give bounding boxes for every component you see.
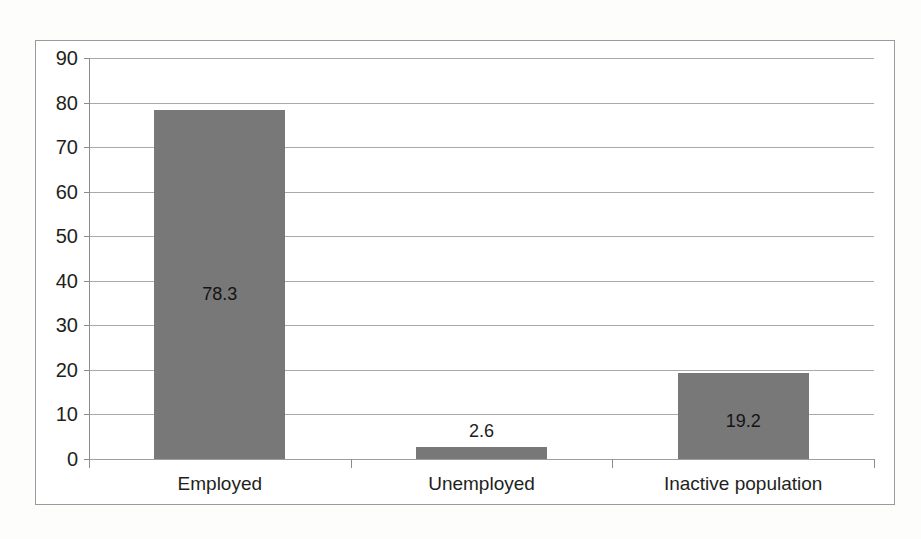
gridline-0 [89, 459, 874, 460]
y-axis-label-90: 90 [56, 48, 78, 68]
y-tick-mark-80 [84, 103, 90, 104]
bar-value-label-employed: 78.3 [202, 285, 237, 303]
category-label-unemployed: Unemployed [428, 474, 535, 493]
y-axis-label-30: 30 [56, 315, 78, 335]
y-tick-mark-40 [84, 281, 90, 282]
y-tick-mark-50 [84, 236, 90, 237]
y-axis-label-60: 60 [56, 182, 78, 202]
y-tick-mark-60 [84, 192, 90, 193]
page-background: 0102030405060708090 78.32.619.2 Employed… [0, 0, 921, 539]
category-tick-2 [612, 459, 613, 468]
chart-frame: 0102030405060708090 78.32.619.2 Employed… [35, 40, 895, 505]
y-axis-label-40: 40 [56, 271, 78, 291]
plot-area: 0102030405060708090 78.32.619.2 Employed… [89, 58, 874, 459]
gridline-90 [89, 58, 874, 59]
y-tick-mark-10 [84, 414, 90, 415]
y-axis-label-0: 0 [67, 449, 78, 469]
bar-unemployed [416, 447, 547, 459]
category-tick-1 [351, 459, 352, 468]
category-label-inactive-population: Inactive population [664, 474, 822, 493]
y-tick-mark-70 [84, 147, 90, 148]
y-axis-label-20: 20 [56, 360, 78, 380]
category-label-employed: Employed [178, 474, 263, 493]
category-tick-3 [874, 459, 875, 468]
y-tick-mark-20 [84, 370, 90, 371]
y-axis-label-10: 10 [56, 404, 78, 424]
y-tick-mark-90 [84, 58, 90, 59]
y-axis-label-80: 80 [56, 93, 78, 113]
y-axis-label-70: 70 [56, 137, 78, 157]
bar-value-label-unemployed: 2.6 [469, 422, 494, 440]
y-tick-mark-30 [84, 325, 90, 326]
gridline-80 [89, 103, 874, 104]
bar-value-label-inactive-population: 19.2 [726, 412, 761, 430]
category-tick-0 [89, 459, 90, 468]
value-axis-line [89, 58, 90, 459]
y-axis-label-50: 50 [56, 226, 78, 246]
